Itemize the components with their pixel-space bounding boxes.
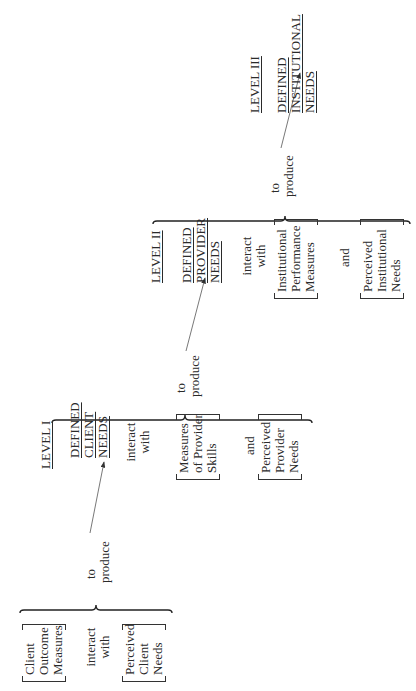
produce-line: to bbox=[84, 533, 98, 593]
needs-assessment-diagram: Client Outcome Measures interact with Pe… bbox=[0, 0, 416, 691]
box-line: Needs bbox=[151, 631, 165, 675]
bracket-tick bbox=[176, 474, 177, 479]
client-outcome-measures-box: Client Outcome Measures bbox=[22, 624, 66, 682]
connector-line: with bbox=[138, 417, 152, 467]
defined-client-needs: DEFINED CLIENT NEEDS bbox=[68, 402, 110, 458]
level3-title: LEVEL III bbox=[248, 56, 262, 113]
connector-line: interact bbox=[84, 625, 98, 669]
bracket-tick bbox=[165, 676, 166, 681]
produce-line: produce bbox=[188, 347, 202, 407]
box-line: Perceived bbox=[361, 226, 375, 292]
bracket-tick bbox=[219, 415, 220, 420]
bracket-tick bbox=[258, 415, 259, 420]
box-line: Client bbox=[23, 631, 37, 675]
defined-line: INSTITUTIONAL bbox=[289, 14, 303, 113]
bracket-tick bbox=[122, 676, 123, 681]
bracket-tick bbox=[176, 415, 177, 420]
defined-line: NEEDS bbox=[96, 402, 110, 458]
diagram-connectors bbox=[0, 0, 416, 691]
box-line: of Provider bbox=[191, 421, 205, 473]
produce-line: produce bbox=[98, 533, 112, 593]
box-line: Perceived bbox=[259, 421, 273, 473]
bracket-tick bbox=[360, 293, 361, 298]
bracket-tick bbox=[274, 293, 275, 298]
perceived-institutional-needs-box: Perceived Institutional Needs bbox=[360, 219, 404, 299]
measures-of-provider-skills-box: Measures of Provider Skills bbox=[176, 414, 220, 480]
box-line: Needs bbox=[389, 226, 403, 292]
box-line: Institutional bbox=[275, 226, 289, 292]
defined-institutional-needs: DEFINED INSTITUTIONAL NEEDS bbox=[275, 14, 317, 113]
bracket-tick bbox=[301, 415, 302, 420]
box-line: Provider bbox=[273, 421, 287, 473]
bracket-tick bbox=[65, 676, 66, 681]
bracket-tick bbox=[403, 220, 404, 225]
and-label-2: and bbox=[338, 248, 352, 267]
defined-line: NEEDS bbox=[208, 218, 222, 283]
defined-line: DEFINED bbox=[68, 402, 82, 458]
defined-line: NEEDS bbox=[303, 14, 317, 113]
bracket-tick bbox=[258, 474, 259, 479]
bracket-tick bbox=[301, 474, 302, 479]
and-label-1: and bbox=[243, 436, 257, 455]
defined-line: DEFINED bbox=[180, 218, 194, 283]
interact-with-label: interact with bbox=[84, 625, 112, 669]
bracket-tick bbox=[274, 220, 275, 225]
brace-group0 bbox=[20, 605, 172, 613]
arrow-to-level2 bbox=[186, 278, 205, 351]
to-produce-label-1: to produce bbox=[174, 347, 202, 407]
box-line: Performance bbox=[289, 226, 303, 292]
bracket-tick bbox=[317, 220, 318, 225]
box-line: Skills bbox=[205, 421, 219, 473]
connector-line: with bbox=[98, 625, 112, 669]
box-line: Measures bbox=[177, 421, 191, 473]
bracket-tick bbox=[22, 676, 23, 681]
level1-title: LEVEL I bbox=[39, 421, 53, 469]
arrow-to-level1 bbox=[90, 462, 104, 533]
bracket-tick bbox=[317, 293, 318, 298]
connector-line: with bbox=[254, 231, 268, 281]
produce-line: produce bbox=[282, 147, 296, 207]
box-line: Needs bbox=[287, 421, 301, 473]
interact-with-label-2: interact with bbox=[240, 231, 268, 281]
perceived-client-needs-box: Perceived Client Needs bbox=[122, 624, 166, 682]
bracket-tick bbox=[360, 220, 361, 225]
level2-title: LEVEL II bbox=[149, 230, 163, 283]
bracket-tick bbox=[22, 625, 23, 630]
connector-line: interact bbox=[240, 231, 254, 281]
bracket-tick bbox=[403, 293, 404, 298]
box-line: Measures bbox=[51, 631, 65, 675]
bracket-tick bbox=[65, 625, 66, 630]
to-produce-label-0: to produce bbox=[84, 533, 112, 593]
perceived-provider-needs-box: Perceived Provider Needs bbox=[258, 414, 302, 480]
box-line: Outcome bbox=[37, 631, 51, 675]
defined-line: DEFINED bbox=[275, 14, 289, 113]
box-line: Measures bbox=[303, 226, 317, 292]
interact-with-label-1: interact with bbox=[124, 417, 152, 467]
defined-line: CLIENT bbox=[82, 402, 96, 458]
connector-line: interact bbox=[124, 417, 138, 467]
bracket-tick bbox=[165, 625, 166, 630]
defined-line: PROVIDER bbox=[194, 218, 208, 283]
institutional-performance-measures-box: Institutional Performance Measures bbox=[274, 219, 318, 299]
box-line: Institutional bbox=[375, 226, 389, 292]
produce-line: to bbox=[268, 147, 282, 207]
bracket-tick bbox=[122, 625, 123, 630]
box-line: Perceived bbox=[123, 631, 137, 675]
defined-provider-needs: DEFINED PROVIDER NEEDS bbox=[180, 218, 222, 283]
bracket-tick bbox=[219, 474, 220, 479]
to-produce-label-2: to produce bbox=[268, 147, 296, 207]
box-line: Client bbox=[137, 631, 151, 675]
produce-line: to bbox=[174, 347, 188, 407]
